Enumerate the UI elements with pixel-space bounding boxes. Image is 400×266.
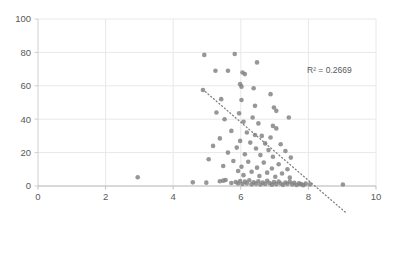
data-point [206, 157, 211, 162]
data-point [239, 84, 244, 89]
data-point [229, 181, 234, 186]
data-point [254, 146, 259, 151]
plot-background [38, 19, 376, 186]
data-point [234, 145, 239, 150]
data-point [276, 162, 281, 167]
data-point [202, 53, 207, 58]
data-point [232, 52, 237, 57]
data-point [253, 104, 258, 109]
data-point [248, 140, 253, 145]
data-point [303, 181, 308, 186]
data-point [223, 178, 228, 183]
data-point [222, 117, 227, 122]
data-point [214, 110, 219, 115]
data-point [245, 130, 250, 135]
data-point [288, 175, 293, 180]
data-point [256, 121, 261, 126]
data-point [249, 170, 254, 175]
y-tick-label: 40 [20, 114, 31, 125]
data-point [255, 60, 260, 65]
data-point [289, 155, 294, 160]
data-point [211, 144, 216, 149]
data-point [250, 115, 255, 120]
data-point [265, 170, 270, 175]
data-point [261, 160, 266, 165]
y-tick-label: 100 [15, 13, 31, 24]
data-point [278, 142, 283, 147]
data-point [238, 139, 243, 144]
data-point [266, 148, 271, 153]
data-point [285, 167, 290, 172]
scatter-chart: 0204060801000246810 R² = 0.2669 [0, 0, 400, 266]
data-point [213, 68, 218, 73]
data-point [283, 149, 288, 154]
y-tick-label: 0 [26, 180, 31, 191]
data-point [280, 171, 285, 176]
data-point [239, 164, 244, 169]
data-point [226, 68, 231, 73]
x-tick-label: 6 [238, 191, 243, 202]
data-point [341, 182, 346, 187]
x-tick-label: 0 [35, 191, 40, 202]
data-point [274, 109, 279, 114]
data-point [247, 178, 252, 183]
data-point [219, 97, 224, 102]
r-squared-label: R² = 0.2669 [307, 65, 352, 75]
data-point [274, 126, 279, 131]
data-point [226, 150, 231, 155]
data-point [255, 165, 260, 170]
data-point [231, 159, 236, 164]
data-point [243, 152, 248, 157]
x-tick-label: 4 [171, 191, 176, 202]
data-point [259, 134, 264, 139]
data-point [270, 166, 275, 171]
data-point [221, 164, 226, 169]
data-point [246, 159, 251, 164]
x-tick-label: 2 [103, 191, 108, 202]
data-point [241, 173, 246, 178]
data-point [218, 136, 223, 141]
data-point [287, 115, 292, 120]
y-tick-label: 80 [20, 47, 31, 58]
data-point [273, 175, 278, 180]
x-tick-label: 8 [306, 191, 311, 202]
x-tick-label: 10 [371, 191, 382, 202]
data-point [251, 86, 256, 91]
data-point [191, 180, 196, 185]
data-point [271, 154, 276, 159]
data-point [268, 92, 273, 97]
data-point [268, 135, 273, 140]
data-point [257, 174, 262, 179]
data-point [236, 169, 241, 174]
chart-canvas: 0204060801000246810 R² = 0.2669 [0, 0, 400, 266]
data-point [204, 180, 209, 185]
y-tick-label: 20 [20, 147, 31, 158]
y-tick-label: 60 [20, 80, 31, 91]
data-point [229, 129, 234, 134]
data-point [237, 111, 242, 116]
data-point [135, 175, 140, 180]
data-point [201, 88, 206, 93]
annotations: R² = 0.2669 [307, 65, 352, 75]
data-point [258, 153, 263, 158]
data-point [239, 98, 244, 103]
data-point [243, 72, 248, 77]
